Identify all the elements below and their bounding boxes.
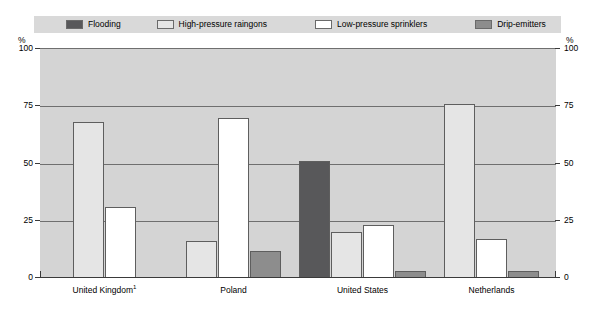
bar-sprinkler-0 (105, 207, 136, 278)
y-tick-left-25 (35, 220, 40, 221)
gridline-50 (40, 164, 556, 165)
y-tick-right-50 (555, 163, 560, 164)
legend-swatch-flooding (66, 20, 83, 29)
y-tick-label-right-0: 0 (564, 273, 586, 282)
x-axis-label-1: Poland (169, 286, 298, 295)
bar-sprinkler-3 (476, 239, 507, 278)
x-axis-label-0: United Kingdom1 (40, 286, 169, 295)
x-axis-label-3: Netherlands (427, 286, 556, 295)
y-tick-right-100 (555, 48, 560, 49)
y-axis-cap-left (40, 271, 41, 278)
y-tick-label-left-75: 75 (11, 101, 33, 110)
bar-raingun-3 (444, 104, 475, 278)
plot-area (40, 48, 556, 278)
y-tick-right-25 (555, 220, 560, 221)
legend-item-low-pressure-sprinklers: Low-pressure sprinklers (315, 20, 427, 29)
y-tick-label-left-25: 25 (11, 216, 33, 225)
x-axis-label-2: United States (298, 286, 427, 295)
y-tick-label-left-50: 50 (11, 159, 33, 168)
legend-swatch-low-pressure-sprinklers (315, 20, 332, 29)
bar-raingun-0 (73, 122, 104, 278)
legend-label-drip-emitters: Drip-emitters (497, 20, 546, 29)
bar-sprinkler-2 (363, 225, 394, 278)
legend-item-flooding: Flooding (66, 20, 121, 29)
y-tick-label-right-75: 75 (564, 101, 586, 110)
legend-item-high-pressure-raingons: High-pressure raingons (157, 20, 267, 29)
legend-label-low-pressure-sprinklers: Low-pressure sprinklers (337, 20, 427, 29)
y-tick-left-50 (35, 163, 40, 164)
bar-drip-1 (250, 251, 281, 278)
y-tick-label-left-100: 100 (11, 44, 33, 53)
legend-label-high-pressure-raingons: High-pressure raingons (179, 20, 267, 29)
legend-label-flooding: Flooding (88, 20, 121, 29)
legend-item-drip-emitters: Drip-emitters (475, 20, 546, 29)
y-tick-left-75 (35, 105, 40, 106)
legend-swatch-high-pressure-raingons (157, 20, 174, 29)
y-tick-right-0 (555, 277, 560, 278)
y-tick-left-0 (35, 277, 40, 278)
y-tick-right-75 (555, 105, 560, 106)
gridline-75 (40, 106, 556, 107)
bar-sprinkler-1 (218, 118, 249, 278)
bar-raingun-2 (331, 232, 362, 278)
chart-legend: Flooding High-pressure raingons Low-pres… (34, 16, 561, 33)
bar-raingun-1 (186, 241, 217, 278)
x-axis-baseline (40, 277, 556, 278)
y-tick-label-left-0: 0 (11, 273, 33, 282)
y-tick-label-right-100: 100 (564, 44, 586, 53)
y-tick-label-right-25: 25 (564, 216, 586, 225)
y-tick-label-right-50: 50 (564, 159, 586, 168)
bar-flooding-2 (299, 161, 330, 278)
legend-swatch-drip-emitters (475, 20, 492, 29)
y-tick-left-100 (35, 48, 40, 49)
